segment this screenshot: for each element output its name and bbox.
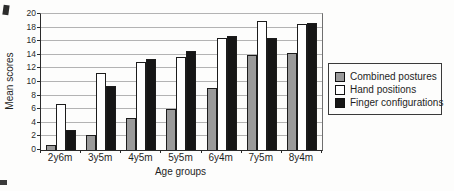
bar-group xyxy=(161,14,201,150)
plot-area xyxy=(40,13,323,151)
y-tick-label: 4 xyxy=(6,117,36,127)
bar-group xyxy=(242,14,282,150)
bar xyxy=(126,118,136,150)
y-tick-mark xyxy=(37,40,40,41)
bar xyxy=(186,51,196,150)
bar xyxy=(227,36,237,150)
legend-label: Hand positions xyxy=(350,84,416,95)
y-tick-label: 16 xyxy=(6,35,36,45)
bar xyxy=(207,88,217,150)
bar-group xyxy=(202,14,242,150)
y-tick-label: 20 xyxy=(6,8,36,18)
legend: Combined posturesHand positionsFinger co… xyxy=(328,63,442,115)
bar xyxy=(267,38,277,150)
legend-item: Finger configurations xyxy=(335,97,436,108)
y-tick-label: 10 xyxy=(6,76,36,86)
bar xyxy=(297,24,307,150)
y-tick-label: 14 xyxy=(6,49,36,59)
bar xyxy=(136,62,146,150)
x-tick-label: 3y5m xyxy=(80,152,120,163)
bar-groups xyxy=(41,14,322,150)
y-tick-mark xyxy=(37,67,40,68)
bar xyxy=(307,23,317,150)
y-tick-mark xyxy=(37,122,40,123)
y-tick-mark xyxy=(37,95,40,96)
bar-group xyxy=(81,14,121,150)
legend-swatch xyxy=(335,98,345,108)
legend-label: Combined postures xyxy=(350,71,437,82)
y-tick-mark xyxy=(37,108,40,109)
bar-group xyxy=(41,14,81,150)
bar-group xyxy=(282,14,322,150)
y-tick-label: 6 xyxy=(6,103,36,113)
x-tick-label: 4y5m xyxy=(120,152,160,163)
bar xyxy=(287,53,297,150)
y-tick-mark xyxy=(37,54,40,55)
bar xyxy=(247,55,257,150)
x-tick-label: 8y4m xyxy=(281,152,321,163)
bar xyxy=(96,73,106,150)
bar xyxy=(217,38,227,150)
bar xyxy=(86,135,96,150)
x-tick-label: 7y5m xyxy=(241,152,281,163)
y-tick-label: 2 xyxy=(6,130,36,140)
legend-item: Hand positions xyxy=(335,84,436,95)
y-tick-label: 8 xyxy=(6,90,36,100)
legend-swatch xyxy=(335,85,345,95)
bar xyxy=(106,86,116,150)
x-axis-tick-labels: 2y6m3y5m4y5m5y5m6y4m7y5m8y4m xyxy=(40,152,321,163)
bar xyxy=(56,104,66,150)
bar xyxy=(166,109,176,150)
y-tick-label: 12 xyxy=(6,62,36,72)
y-tick-mark xyxy=(37,13,40,14)
bar-group xyxy=(121,14,161,150)
bar xyxy=(146,59,156,150)
scan-artifact xyxy=(0,180,7,185)
x-tick-label: 6y4m xyxy=(201,152,241,163)
y-tick-mark xyxy=(37,27,40,28)
bar xyxy=(176,57,186,150)
x-tick-label: 2y6m xyxy=(40,152,80,163)
y-tick-label: 18 xyxy=(6,22,36,32)
legend-label: Finger configurations xyxy=(350,97,443,108)
x-axis-title: Age groups xyxy=(40,166,321,177)
x-tick-mark xyxy=(321,150,322,153)
y-tick-mark xyxy=(37,81,40,82)
bar xyxy=(46,145,56,150)
legend-items: Combined posturesHand positionsFinger co… xyxy=(335,71,436,108)
bar-chart: Mean scores 02468101214161820 2y6m3y5m4y… xyxy=(0,0,454,191)
y-tick-label: 0 xyxy=(6,144,36,154)
legend-item: Combined postures xyxy=(335,71,436,82)
legend-swatch xyxy=(335,72,345,82)
bar xyxy=(66,130,76,150)
x-tick-label: 5y5m xyxy=(160,152,200,163)
y-tick-mark xyxy=(37,135,40,136)
bar xyxy=(257,21,267,150)
